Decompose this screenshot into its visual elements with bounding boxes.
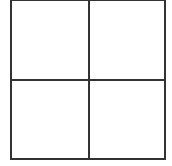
- grid-cell-top-left: [12, 1, 88, 79]
- horizontal-divider: [12, 79, 164, 81]
- grid-cell-top-right: [90, 1, 164, 79]
- grid-cell-bottom-right: [90, 81, 164, 158]
- grid-cell-bottom-left: [12, 81, 88, 158]
- two-by-two-grid: [10, 0, 166, 160]
